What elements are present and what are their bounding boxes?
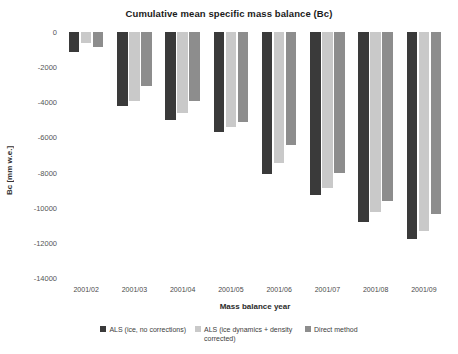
y-axis-tick-label: -14000 [34, 274, 57, 283]
x-axis-tick-label: 2001/04 [170, 286, 195, 293]
chart-container: Cumulative mean specific mass balance (B… [0, 0, 458, 354]
bar[interactable] [226, 32, 237, 127]
y-axis-tick-label: -8000 [38, 168, 57, 177]
bar[interactable] [286, 32, 297, 145]
legend-item[interactable]: Direct method [305, 325, 358, 334]
bar-group [214, 32, 249, 278]
x-axis-tick-label: 2001/07 [315, 286, 340, 293]
bar[interactable] [141, 32, 152, 86]
bar[interactable] [81, 32, 92, 43]
bar[interactable] [69, 32, 80, 52]
bar[interactable] [274, 32, 285, 163]
x-axis-tick-label: 2001/08 [363, 286, 388, 293]
bar-group [165, 32, 200, 278]
bar-group [310, 32, 345, 278]
x-axis-tick-label: 2001/05 [218, 286, 243, 293]
bar[interactable] [177, 32, 188, 113]
x-axis-tick-label: 2001/09 [411, 286, 436, 293]
y-axis-tick-label: -12000 [34, 238, 57, 247]
y-axis-tick-label: -4000 [38, 98, 57, 107]
legend-label: ALS (ice dynamics + density corrected) [204, 325, 296, 344]
y-axis-tick-label: 0 [53, 28, 57, 37]
bar[interactable] [334, 32, 345, 173]
legend-swatch-icon [305, 326, 311, 332]
bar[interactable] [370, 32, 381, 212]
legend-swatch-icon [195, 326, 201, 332]
legend-item[interactable]: ALS (ice dynamics + density corrected) [195, 325, 296, 344]
bar[interactable] [129, 32, 140, 101]
bar[interactable] [382, 32, 393, 201]
x-axis-title: Mass balance year [62, 302, 448, 311]
chart-legend: ALS (ice, no corrections)ALS (ice dynami… [0, 325, 458, 344]
y-axis-tick-label: -2000 [38, 63, 57, 72]
bar-group [117, 32, 152, 278]
bar[interactable] [358, 32, 369, 222]
x-axis-tick-label: 2001/06 [266, 286, 291, 293]
bar[interactable] [214, 32, 225, 132]
y-axis-title: Bc [mm w.e.] [2, 115, 16, 225]
bar[interactable] [419, 32, 430, 231]
bar-group [262, 32, 297, 278]
legend-label: ALS (ice, no corrections) [109, 325, 186, 334]
bar[interactable] [322, 32, 333, 188]
legend-swatch-icon [100, 326, 106, 332]
bar[interactable] [431, 32, 442, 214]
bar-group [407, 32, 442, 278]
chart-title: Cumulative mean specific mass balance (B… [0, 8, 458, 19]
bar[interactable] [117, 32, 128, 106]
y-axis-tick-label: -10000 [34, 203, 57, 212]
x-axis-tick-label: 2001/02 [73, 286, 98, 293]
legend-item[interactable]: ALS (ice, no corrections) [100, 325, 186, 334]
bar[interactable] [262, 32, 273, 174]
bar[interactable] [407, 32, 418, 239]
y-axis-tick-label: -6000 [38, 133, 57, 142]
plot-area: 0-2000-4000-6000-8000-10000-12000-14000 … [62, 32, 448, 278]
x-axis-tick-label: 2001/03 [122, 286, 147, 293]
bar-group [69, 32, 104, 278]
bar-group [358, 32, 393, 278]
bar[interactable] [238, 32, 249, 122]
bar[interactable] [165, 32, 176, 120]
bar[interactable] [93, 32, 104, 47]
bar[interactable] [189, 32, 200, 101]
legend-label: Direct method [314, 325, 358, 334]
bar[interactable] [310, 32, 321, 195]
